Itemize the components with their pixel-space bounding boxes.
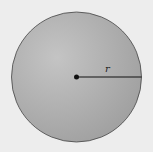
circle-diagram: r xyxy=(0,0,153,152)
center-point xyxy=(74,75,79,80)
